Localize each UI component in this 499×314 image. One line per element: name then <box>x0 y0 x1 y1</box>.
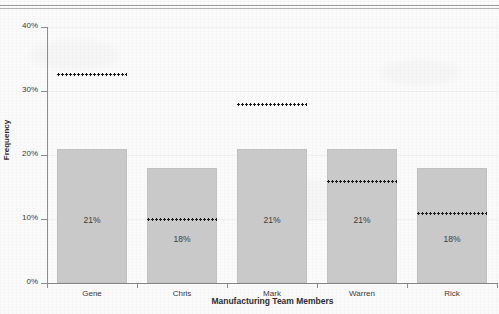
y-axis-title: Frequency <box>2 120 11 160</box>
marker-line-chris <box>147 218 217 221</box>
page-top-rule-line-lower <box>0 8 499 9</box>
plot-area: 40% 30% 20% 10% 0% 21% 18% <box>47 27 498 284</box>
y-tick-40: 40% <box>41 27 47 28</box>
bar-value-mark: 21% <box>237 215 307 225</box>
gridline-0 <box>47 283 498 284</box>
y-tick-label-20: 20% <box>22 149 38 158</box>
bar-warren[interactable]: 21% <box>327 149 397 283</box>
bar-gene[interactable]: 21% <box>57 149 127 283</box>
y-tick-label-0: 0% <box>26 277 38 286</box>
x-tick-boundary-3 <box>317 284 318 288</box>
bar-rick[interactable]: 18% <box>417 168 487 283</box>
page-top-rule-line-upper <box>0 5 499 6</box>
marker-line-rick <box>417 212 487 215</box>
marker-line-gene <box>57 73 127 76</box>
x-tick-boundary-5 <box>497 284 498 288</box>
y-tick-label-40: 40% <box>22 21 38 30</box>
marker-line-mark <box>237 103 307 106</box>
bar-value-gene: 21% <box>57 215 127 225</box>
bar-value-rick: 18% <box>417 234 487 244</box>
bar-mark[interactable]: 21% <box>237 149 307 283</box>
page-top-rule <box>0 5 499 9</box>
gridline-40 <box>47 27 498 28</box>
bar-value-chris: 18% <box>147 234 217 244</box>
y-tick-label-30: 30% <box>22 85 38 94</box>
x-axis-title: Manufacturing Team Members <box>47 296 498 306</box>
bar-chart: Frequency 40% 30% 20% 10% 0% <box>0 12 499 308</box>
bar-value-warren: 21% <box>327 215 397 225</box>
y-tick-20: 20% <box>41 155 47 156</box>
x-tick-boundary-4 <box>407 284 408 288</box>
x-tick-boundary-1 <box>137 284 138 288</box>
bar-chris[interactable]: 18% <box>147 168 217 283</box>
y-tick-label-10: 10% <box>22 213 38 222</box>
marker-line-warren <box>327 180 397 183</box>
y-tick-10: 10% <box>41 219 47 220</box>
x-tick-boundary-2 <box>227 284 228 288</box>
x-tick-boundary-0 <box>47 284 48 288</box>
gridline-30 <box>47 91 498 92</box>
y-tick-30: 30% <box>41 91 47 92</box>
